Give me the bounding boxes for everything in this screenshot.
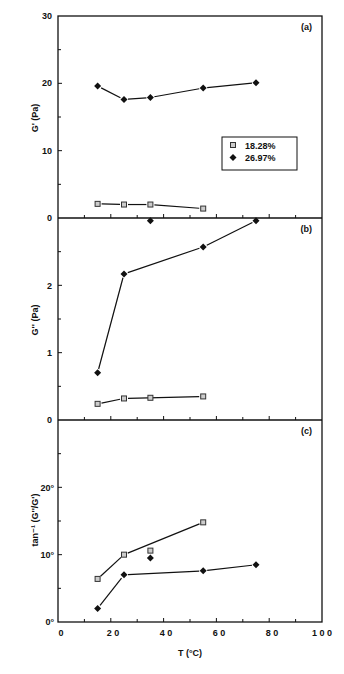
square-marker [148,548,153,553]
square-marker [95,201,100,206]
square-marker [201,206,206,211]
diamond-marker [94,83,101,90]
xtick-60: 6 0 [213,628,226,638]
diamond-marker [147,555,154,562]
panel-label-b: (b) [301,224,313,234]
ytick-a-20: 20 [42,78,52,88]
ytick-a-0: 0 [47,213,52,223]
square-marker [95,576,100,581]
square-marker [148,395,153,400]
diamond-marker [200,85,207,92]
xtick-100: 1 0 0 [312,628,332,638]
panel-label-a: (a) [301,22,312,32]
diamond-marker [200,243,207,250]
square-marker [122,552,127,557]
legend-square-marker [231,143,236,148]
xtick-20: 2 0 [107,628,120,638]
diamond-marker [94,605,101,612]
axis-ticks [58,50,296,622]
ytick-c-20: 20° [40,483,54,493]
square-marker [95,401,100,406]
diamond-marker [253,79,260,86]
diamond-marker [200,567,207,574]
y-axis-label-c: tan⁻¹ (G''/G') [30,494,40,547]
diamond-marker [121,96,128,103]
chart-figure: 30 20 10 0 2 1 0 20° 10° 0° 0 2 0 4 0 6 … [0,0,344,674]
square-marker [148,202,153,207]
ytick-b-0: 0 [47,415,52,425]
x-axis-label: T (°C) [178,648,202,658]
legend-label-1: 18.28% [245,141,276,151]
y-axis-label-a: G' (Pa) [30,104,40,133]
plot-frame [58,16,322,622]
square-marker [201,394,206,399]
y-axis-label-b: G'' (Pa) [30,305,40,336]
xtick-0: 0 [58,628,63,638]
ytick-c-10: 10° [40,550,54,560]
xtick-40: 4 0 [160,628,173,638]
diamond-marker [253,561,260,568]
square-marker [201,520,206,525]
diamond-marker [121,270,128,277]
diamond-marker [94,369,101,376]
legend: 18.28% 26.97% [222,137,297,170]
square-marker [122,202,127,207]
ytick-a-10: 10 [42,146,52,156]
diamond-marker [121,571,128,578]
ytick-b-1: 1 [47,348,52,358]
square-marker [122,396,127,401]
ytick-a-30: 30 [42,11,52,21]
ytick-b-2: 2 [47,281,52,291]
xtick-80: 8 0 [266,628,279,638]
legend-label-2: 26.97% [245,153,276,163]
ytick-c-0: 0° [45,617,54,627]
diamond-marker [147,94,154,101]
panel-label-c: (c) [301,426,312,436]
